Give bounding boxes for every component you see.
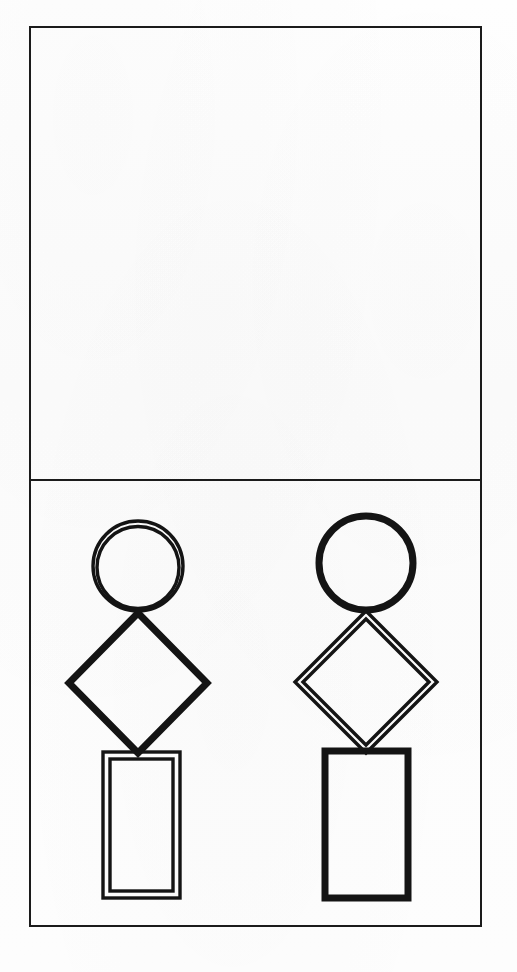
drawing-canvas <box>0 0 517 972</box>
top-panel <box>30 27 481 480</box>
worksheet-page <box>0 0 517 972</box>
bottom-panel <box>30 480 481 926</box>
top-panel-area <box>30 27 481 480</box>
